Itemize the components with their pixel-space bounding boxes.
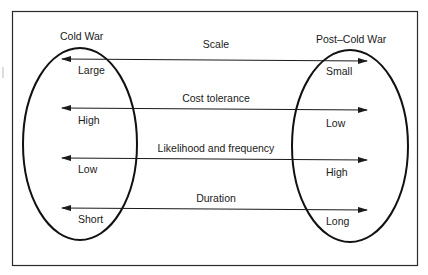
- cost-tolerance-arrow: [62, 108, 367, 110]
- post-cold-war-value-scale: Small: [326, 65, 352, 77]
- cold-war-value-scale: Large: [78, 64, 105, 76]
- cold-war-value-duration: Short: [78, 213, 103, 225]
- likelihood-arrow: [62, 158, 367, 160]
- dimension-label-duration: Duration: [196, 192, 236, 204]
- post-cold-war-value-duration: Long: [326, 215, 349, 227]
- dimension-label-likelihood: Likelihood and frequency: [158, 142, 275, 154]
- cold-war-title: Cold War: [60, 30, 103, 42]
- post-cold-war-ellipse: [292, 50, 408, 242]
- duration-arrow: [62, 208, 367, 210]
- post-cold-war-value-likelihood: High: [326, 166, 348, 178]
- dimension-label-scale: Scale: [203, 38, 229, 50]
- post-cold-war-value-cost: Low: [326, 117, 345, 129]
- cold-war-value-likelihood: Low: [78, 163, 97, 175]
- dimension-label-cost-tolerance: Cost tolerance: [182, 92, 250, 104]
- post-cold-war-title: Post–Cold War: [316, 33, 386, 45]
- cold-war-value-cost: High: [78, 114, 100, 126]
- cold-war-ellipse: [23, 48, 137, 240]
